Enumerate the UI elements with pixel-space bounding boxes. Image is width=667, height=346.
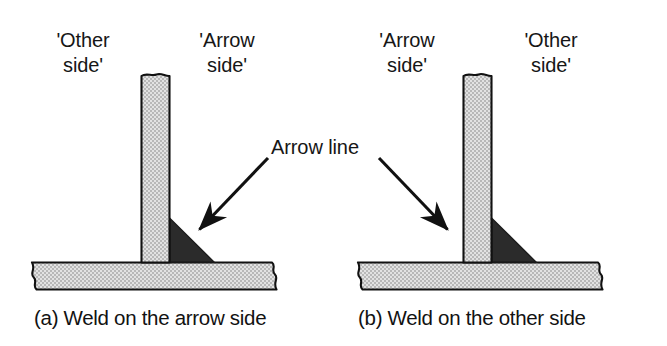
panel-b-vertical-plate (464, 74, 492, 263)
panel-b-right-side-label: 'Other side' (496, 28, 606, 78)
panel-a-left-side-label: 'Other side' (28, 28, 138, 78)
panel-a-drawing (32, 74, 277, 290)
panel-a-base-plate (32, 263, 277, 290)
panel-b-left-side-label: 'Arrow side' (352, 28, 462, 78)
welding-symbol-figure: 'Other side' 'Arrow side' Arrow line 'Ar… (0, 0, 667, 346)
panel-b-base-plate (358, 263, 603, 290)
panel-a-arrow-leader (200, 158, 269, 230)
panel-a-vertical-plate (142, 74, 170, 263)
panel-b-drawing (358, 74, 603, 290)
panel-a-right-side-label: 'Arrow side' (172, 28, 282, 78)
panel-b-weld-fillet (492, 219, 536, 263)
panel-b-caption: (b) Weld on the other side (358, 305, 586, 331)
panel-b-arrow-leader (379, 158, 448, 230)
panel-a-weld-fillet (170, 219, 214, 263)
arrow-line-label: Arrow line (271, 135, 359, 159)
panel-a-caption: (a) Weld on the arrow side (34, 305, 266, 331)
